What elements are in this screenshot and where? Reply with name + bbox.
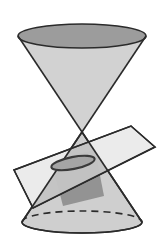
conic-section-figure: Conic section: plane intersecting a doub… [0, 0, 164, 241]
conic-section-svg: Conic section: plane intersecting a doub… [0, 0, 164, 241]
cone-top-cap [18, 24, 146, 48]
